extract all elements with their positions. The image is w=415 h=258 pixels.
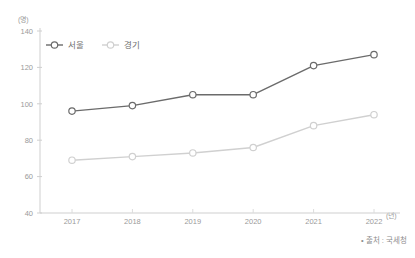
data-point-marker [69, 157, 75, 163]
series-line [72, 55, 374, 111]
y-tick-label: 40 [25, 209, 33, 218]
data-point-marker [371, 112, 377, 118]
data-point-marker [310, 62, 316, 68]
legend-item-seoul[interactable]: 서울 [46, 40, 84, 50]
x-tick-label: 2019 [184, 217, 201, 226]
y-tick-label: 80 [25, 136, 33, 145]
chart-legend: 서울경기 [46, 40, 140, 50]
legend-label: 서울 [68, 40, 84, 50]
legend-label: 경기 [124, 40, 140, 50]
line-chart: (명) (년) 406080100120140 2017201820192020… [0, 0, 415, 258]
legend-item-gyeonggi[interactable]: 경기 [102, 40, 140, 50]
x-axis-ticks: 201720182019202020212022 [64, 209, 383, 226]
data-point-marker [69, 108, 75, 114]
data-point-marker [190, 92, 196, 98]
x-tick-label: 2018 [124, 217, 141, 226]
data-series-layer [69, 51, 377, 163]
y-tick-label: 100 [20, 100, 33, 109]
data-point-marker [190, 150, 196, 156]
x-tick-label: 2022 [366, 217, 383, 226]
data-point-marker [129, 153, 135, 159]
x-tick-label: 2017 [64, 217, 81, 226]
data-point-marker [371, 51, 377, 57]
series-seoul [69, 51, 377, 114]
x-tick-label: 2020 [245, 217, 262, 226]
legend-swatch-marker [51, 42, 57, 48]
series-line [72, 115, 374, 161]
x-tick-label: 2021 [305, 217, 322, 226]
plot-area: 406080100120140 201720182019202020212022… [0, 0, 415, 258]
y-tick-label: 60 [25, 172, 33, 181]
y-axis-ticks: 406080100120140 [20, 27, 42, 218]
data-point-marker [129, 102, 135, 108]
data-point-marker [310, 122, 316, 128]
y-tick-label: 120 [20, 63, 33, 72]
legend-swatch-marker [107, 42, 113, 48]
source-note: • 출처 : 국세청 [361, 234, 407, 245]
data-point-marker [250, 92, 256, 98]
y-tick-label: 140 [20, 27, 33, 36]
series-gyeonggi [69, 112, 377, 164]
data-point-marker [250, 144, 256, 150]
